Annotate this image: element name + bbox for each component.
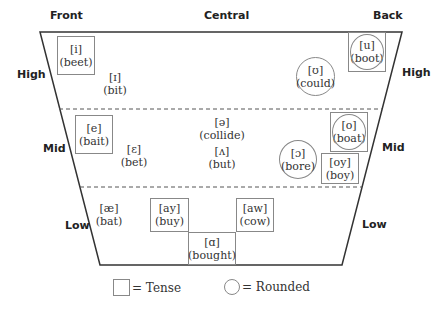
vowel-example: (cow) — [240, 215, 271, 228]
row-label-mid-left: Mid — [43, 142, 66, 155]
vowel-e: [e] (bait) — [75, 115, 113, 154]
vowel-ay: [ay] (buy) — [150, 198, 189, 232]
vowel-example: (bore) — [281, 160, 315, 173]
legend-tense: = Tense — [113, 279, 181, 296]
vowel-symbol: [ay] — [159, 202, 180, 215]
rounded-marker — [332, 114, 366, 150]
vowel-example: (bat) — [96, 215, 123, 228]
row-label-low-left: Low — [65, 219, 90, 232]
row-label-high-right: High — [402, 66, 431, 79]
vowel-symbol: [ɑ] — [204, 236, 220, 249]
vowel-ae: [æ] (bat) — [92, 201, 126, 229]
vowel-symbol: [ə] — [214, 116, 229, 129]
vowel-near-close-back: [ʊ] (could) — [296, 57, 335, 96]
vowel-symbol: [oy] — [329, 156, 350, 169]
row-label-mid-right: Mid — [382, 141, 405, 154]
vowel-example: (could) — [296, 77, 335, 90]
rounded-marker — [350, 34, 384, 70]
vowel-example: (bait) — [79, 135, 109, 148]
vowel-open-mid-front: [ɛ] (bet) — [115, 142, 153, 170]
vowel-open-back: [ɑ] (bought) — [188, 232, 236, 265]
vowel-example: (but) — [208, 158, 235, 171]
vowel-example: (bought) — [188, 249, 236, 262]
vowel-symbol: [æ] — [100, 202, 119, 215]
square-icon — [113, 279, 130, 296]
legend-tense-label: = Tense — [132, 281, 181, 295]
vowel-example: (bet) — [121, 156, 148, 169]
vowel-oy: [oy] (boy) — [321, 153, 359, 184]
vowel-symbol: [e] — [86, 122, 101, 135]
vowel-example: (collide) — [199, 129, 244, 142]
vowel-symbol: [ʌ] — [215, 145, 230, 158]
vowel-symbol: [ɔ] — [291, 147, 306, 160]
vowel-schwa: [ə] (collide) — [196, 115, 248, 143]
row-label-low-right: Low — [362, 218, 387, 231]
vowel-symbol: [aw] — [243, 202, 268, 215]
column-label-back: Back — [373, 9, 403, 22]
circle-icon — [224, 279, 240, 295]
vowel-aw: [aw] (cow) — [236, 198, 274, 232]
vowel-u: [u] (boot) — [348, 32, 386, 72]
row-label-high-left: High — [17, 68, 46, 81]
vowel-wedge: [ʌ] (but) — [203, 144, 241, 172]
vowel-example: (boy) — [326, 169, 354, 182]
vowel-i: [i] (beet) — [57, 36, 95, 75]
vowel-o: [o] (boat) — [330, 112, 368, 152]
vowel-example: (bit) — [103, 84, 127, 97]
vowel-symbol: [ɛ] — [127, 143, 141, 156]
column-label-central: Central — [204, 9, 249, 22]
vowel-near-close-front: [ɪ] (bit) — [96, 70, 134, 98]
vowel-example: (beet) — [59, 56, 92, 69]
vowel-symbol: [ɪ] — [109, 71, 121, 84]
vowel-symbol: [ʊ] — [308, 64, 323, 77]
vowel-example: (buy) — [155, 215, 184, 228]
legend-rounded: = Rounded — [224, 279, 310, 295]
legend-rounded-label: = Rounded — [242, 280, 310, 294]
vowel-symbol: [i] — [70, 43, 82, 56]
column-label-front: Front — [50, 9, 83, 22]
vowel-open-mid-back: [ɔ] (bore) — [279, 140, 317, 179]
